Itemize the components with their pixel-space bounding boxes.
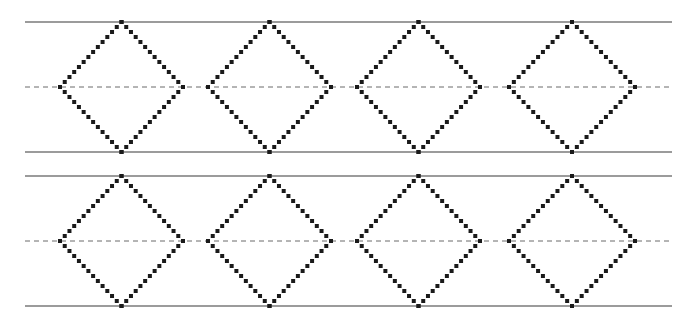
diamond-2-1-dot xyxy=(82,264,86,268)
diamond-2-3-dot xyxy=(374,219,378,223)
diamond-2-2-dot xyxy=(286,284,290,288)
diamond-2-4-dot xyxy=(609,264,613,268)
diamond-1-1-dot xyxy=(143,45,147,49)
diamond-1-3-dot xyxy=(388,120,392,124)
diamond-1-2-dot xyxy=(258,140,262,144)
diamond-2-3-dot xyxy=(469,229,473,233)
diamond-2-2-dot xyxy=(310,259,314,263)
diamond-2-2-dot xyxy=(249,284,253,288)
diamond-2-3-dot xyxy=(459,219,463,223)
diamond-1-3-dot xyxy=(478,85,482,89)
diamond-2-2-dot xyxy=(272,299,276,303)
diamond-2-2-dot xyxy=(211,244,215,248)
diamond-1-2-dot xyxy=(282,135,286,139)
diamond-1-4-dot xyxy=(517,75,521,79)
diamond-1-3-dot xyxy=(393,125,397,129)
diamond-1-1-dot xyxy=(77,65,81,69)
diamond-1-4-dot xyxy=(560,140,564,144)
diamond-1-3-dot xyxy=(393,45,397,49)
diamond-1-4-dot xyxy=(628,80,632,84)
diamond-1-4-dot xyxy=(546,45,550,49)
diamond-2-3-dot xyxy=(421,299,425,303)
diamond-2-2-dot xyxy=(215,249,219,253)
diamond-1-4-dot xyxy=(555,35,559,39)
diamond-2-2-dot xyxy=(301,209,305,213)
diamond-1-1-dot xyxy=(110,30,114,34)
diamond-1-2-dot xyxy=(305,110,309,114)
diamond-1-3-dot xyxy=(464,70,468,74)
diamond-2-3-dot xyxy=(374,259,378,263)
diamond-1-2-dot xyxy=(215,75,219,79)
diamond-2-2-dot xyxy=(305,264,309,268)
diamond-1-2-dot xyxy=(315,100,319,104)
diamond-1-1-dot xyxy=(72,100,76,104)
diamond-2-1-dot xyxy=(138,194,142,198)
diamond-1-3-dot xyxy=(379,60,383,64)
diamond-1-4-dot xyxy=(594,45,598,49)
diamond-2-4-dot xyxy=(541,274,545,278)
diamond-1-1-dot xyxy=(124,25,128,29)
diamond-2-2-dot xyxy=(258,184,262,188)
diamond-2-4-dot xyxy=(614,219,618,223)
diamond-2-1-dot xyxy=(110,184,114,188)
diamond-2-4-dot xyxy=(536,209,540,213)
diamond-1-1-dot xyxy=(162,65,166,69)
diamond-1-4-dot xyxy=(599,50,603,54)
diamond-1-1-dot xyxy=(91,50,95,54)
diamond-1-1-dot xyxy=(153,55,157,59)
diamond-2-1-dot xyxy=(153,209,157,213)
diamond-1-2-dot xyxy=(234,55,238,59)
diamond-2-3-dot xyxy=(412,179,416,183)
diamond-1-2-dot xyxy=(239,120,243,124)
diamond-2-4-dot xyxy=(609,214,613,218)
diamond-1-4-dot xyxy=(536,115,540,119)
diamond-2-1-dot xyxy=(58,239,62,243)
diamond-2-3-dot xyxy=(450,269,454,273)
diamond-1-4-dot xyxy=(618,70,622,74)
diamond-2-2-dot xyxy=(244,279,248,283)
diamond-1-2-dot xyxy=(305,60,309,64)
diamond-2-1-dot xyxy=(67,249,71,253)
diamond-1-2-dot xyxy=(220,100,224,104)
diamond-1-3-dot xyxy=(417,150,421,154)
diamond-2-1-dot xyxy=(63,244,67,248)
diamond-2-1-dot xyxy=(96,199,100,203)
diamond-2-3-dot xyxy=(364,229,368,233)
diamond-2-1-dot xyxy=(101,194,105,198)
diamond-1-2-dot xyxy=(277,140,281,144)
diamond-1-1-dot xyxy=(120,20,124,24)
diamond-1-4-dot xyxy=(623,95,627,99)
diamond-2-1-dot xyxy=(138,284,142,288)
diamond-1-3-dot xyxy=(426,30,430,34)
diamond-1-2-dot xyxy=(258,30,262,34)
diamond-1-3-dot xyxy=(369,70,373,74)
diamond-1-4-dot xyxy=(614,105,618,109)
diamond-2-1-dot xyxy=(86,209,90,213)
diamond-2-4-dot xyxy=(517,229,521,233)
diamond-2-4-dot xyxy=(546,199,550,203)
diamond-1-4-dot xyxy=(575,145,579,149)
diamond-2-3-dot xyxy=(435,194,439,198)
diamond-2-3-dot xyxy=(473,234,477,238)
diamond-1-3-dot xyxy=(407,140,411,144)
diamond-1-1-dot xyxy=(67,95,71,99)
diamond-2-3-dot xyxy=(388,204,392,208)
diamond-1-1-dot xyxy=(129,140,133,144)
diamond-2-1-dot xyxy=(86,269,90,273)
diamond-2-2-dot xyxy=(215,229,219,233)
diamond-2-1-dot xyxy=(129,294,133,298)
diamond-2-2-dot xyxy=(277,184,281,188)
diamond-1-1-dot xyxy=(63,80,67,84)
diamond-2-4-dot xyxy=(555,289,559,293)
diamond-1-3-dot xyxy=(435,40,439,44)
diamond-2-2-dot xyxy=(239,204,243,208)
diamond-1-1-dot xyxy=(129,30,133,34)
diamond-1-4-dot xyxy=(512,90,516,94)
diamond-2-3-dot xyxy=(431,189,435,193)
diamond-2-1-dot xyxy=(105,189,109,193)
diamond-2-1-dot xyxy=(176,234,180,238)
diamond-2-3-dot xyxy=(445,274,449,278)
diamond-1-1-dot xyxy=(77,105,81,109)
diamond-1-2-dot xyxy=(234,115,238,119)
diamond-1-3-dot xyxy=(440,45,444,49)
